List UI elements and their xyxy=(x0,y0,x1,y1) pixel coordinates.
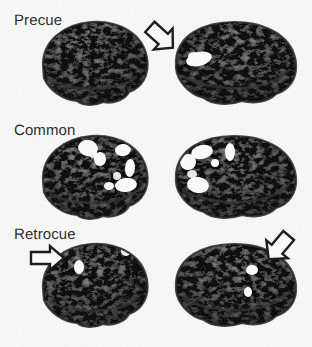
retrocue-left-arrow xyxy=(28,243,68,273)
brain-render-common-right xyxy=(168,128,302,226)
activation-precentral-cluster xyxy=(74,260,84,274)
activation-temporal-cluster xyxy=(104,182,114,190)
row-label-retrocue: Retrocue xyxy=(14,226,76,243)
brain-activation-figure: Precue xyxy=(0,0,312,347)
activation-mid-frontal-cluster xyxy=(211,159,219,167)
brain-render-precue-right xyxy=(168,14,302,112)
precue-arrow xyxy=(140,16,182,58)
retrocue-right-arrow xyxy=(258,226,300,268)
brain-render-common-left xyxy=(33,128,151,226)
activation-occipital-cluster xyxy=(246,265,258,275)
row-label-common: Common xyxy=(14,122,75,139)
activation-precentral-cluster xyxy=(225,143,235,161)
activation-inferior-occipital-cluster xyxy=(244,287,252,297)
row-label-precue: Precue xyxy=(14,12,62,29)
